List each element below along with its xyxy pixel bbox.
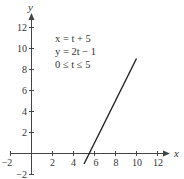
- y-tick-label: 2: [22, 127, 27, 138]
- y-tick-label: 12: [17, 22, 27, 33]
- parametric-plot: −2 2 4 6 8 10 12 12 10 8 6 4 2 −2 x y x …: [0, 0, 184, 179]
- y-tick-label: −2: [16, 169, 27, 179]
- x-tick-label: 12: [153, 157, 163, 168]
- equation-y: y = 2t − 1: [55, 46, 96, 57]
- x-axis-label: x: [173, 147, 179, 159]
- y-tick-label: 8: [22, 64, 27, 75]
- y-tick-label: 10: [17, 43, 27, 54]
- x-axis-arrow-icon: [163, 151, 170, 157]
- equation-t-range: 0 ≤ t ≤ 5: [55, 59, 90, 70]
- x-tick-label: 4: [71, 157, 76, 168]
- y-axis: [29, 13, 35, 175]
- y-axis-label: y: [27, 1, 33, 13]
- x-tick-label: 10: [132, 157, 142, 168]
- x-tick-label: 8: [114, 157, 119, 168]
- x-tick-label: 2: [50, 157, 55, 168]
- x-tick-label: 6: [94, 157, 99, 168]
- y-tick-label: 6: [22, 85, 27, 96]
- equation-x: x = t + 5: [55, 33, 91, 44]
- parametric-line: [84, 59, 137, 165]
- x-tick-label: −2: [2, 157, 13, 168]
- y-tick-label: 4: [22, 106, 27, 117]
- y-axis-arrow-icon: [29, 13, 35, 20]
